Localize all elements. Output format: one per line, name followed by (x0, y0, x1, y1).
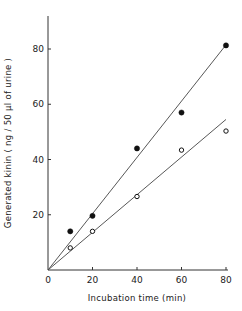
y-tick-label: 80 (33, 44, 45, 54)
data-points (68, 43, 229, 250)
filled-circle-point (134, 146, 139, 151)
chart: 020406080 20406080 Incubation time (min)… (0, 0, 242, 311)
x-tick-label: 40 (131, 275, 143, 285)
x-tick-label: 0 (45, 275, 51, 285)
open-circle-point (179, 148, 183, 152)
x-tick-label: 80 (220, 275, 232, 285)
axes (48, 16, 228, 270)
open-circle-point (224, 129, 228, 133)
filled-circle-point (90, 213, 95, 218)
open-circle-point (68, 246, 72, 250)
y-tick-label: 60 (33, 99, 45, 109)
x-tick-label: 60 (176, 275, 188, 285)
open-circle-point (135, 194, 139, 198)
fit-lines (48, 45, 226, 270)
y-axis-label: Generated kinin ( ng / 50 µl of urine ) (3, 58, 13, 228)
filled-circle-point (179, 110, 184, 115)
filled-circle-point (223, 43, 228, 48)
x-tick-label: 20 (87, 275, 99, 285)
fit-line (48, 45, 226, 270)
open-circle-point (90, 229, 94, 233)
filled-circle-point (68, 229, 73, 234)
y-tick-label: 20 (33, 210, 45, 220)
y-tick-label: 40 (33, 155, 45, 165)
x-axis-label: Incubation time (min) (88, 293, 186, 303)
